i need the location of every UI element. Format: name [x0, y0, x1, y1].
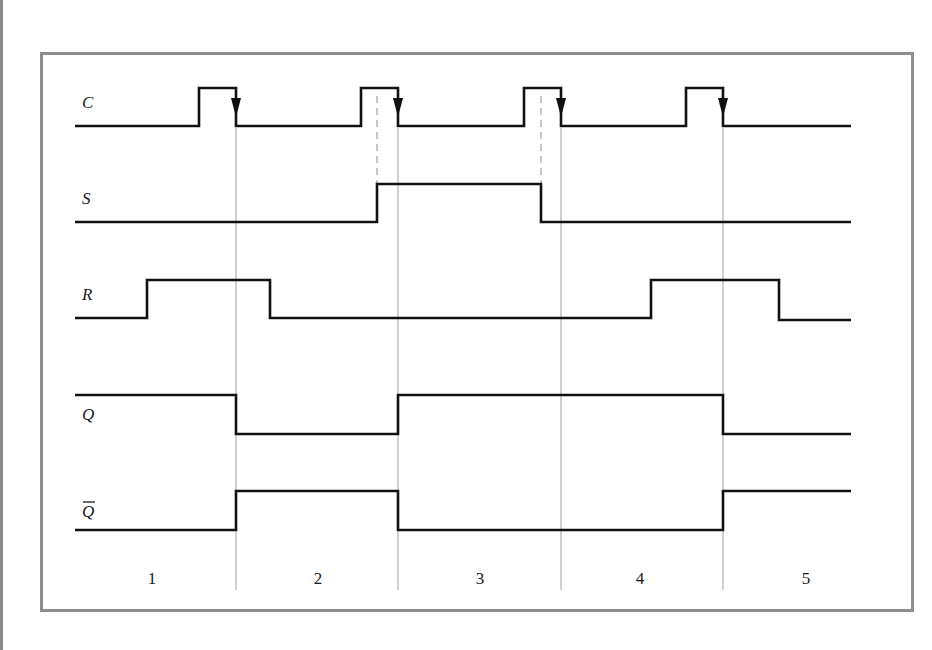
period-label-5: 5 — [802, 569, 811, 588]
falling-edge-arrow-icon — [231, 98, 241, 117]
signal-label-C: C — [82, 93, 94, 112]
signal-label-S: S — [82, 189, 91, 208]
signal-label-R: R — [81, 285, 93, 304]
period-label-3: 3 — [476, 569, 485, 588]
timing-diagram: CSRQQ 12345 — [0, 0, 932, 650]
falling-edge-arrows — [231, 98, 728, 117]
waveform-Q — [75, 395, 851, 434]
signal-waveforms — [75, 88, 851, 530]
dashed-guides — [377, 96, 541, 184]
period-label-2: 2 — [314, 569, 323, 588]
falling-edge-arrow-icon — [393, 98, 403, 117]
signal-labels: CSRQQ — [81, 93, 95, 521]
period-dividers — [236, 128, 723, 590]
waveform-R — [75, 280, 851, 320]
waveform-Q-bar — [75, 491, 851, 530]
period-labels: 12345 — [148, 569, 811, 588]
falling-edge-arrow-icon — [556, 98, 566, 117]
signal-label-Q-bar: Q — [82, 502, 94, 521]
period-label-1: 1 — [148, 569, 157, 588]
waveform-S — [75, 184, 851, 222]
signal-label-Q: Q — [82, 405, 94, 424]
falling-edge-arrow-icon — [718, 98, 728, 117]
period-label-4: 4 — [636, 569, 645, 588]
waveform-C — [75, 88, 851, 126]
